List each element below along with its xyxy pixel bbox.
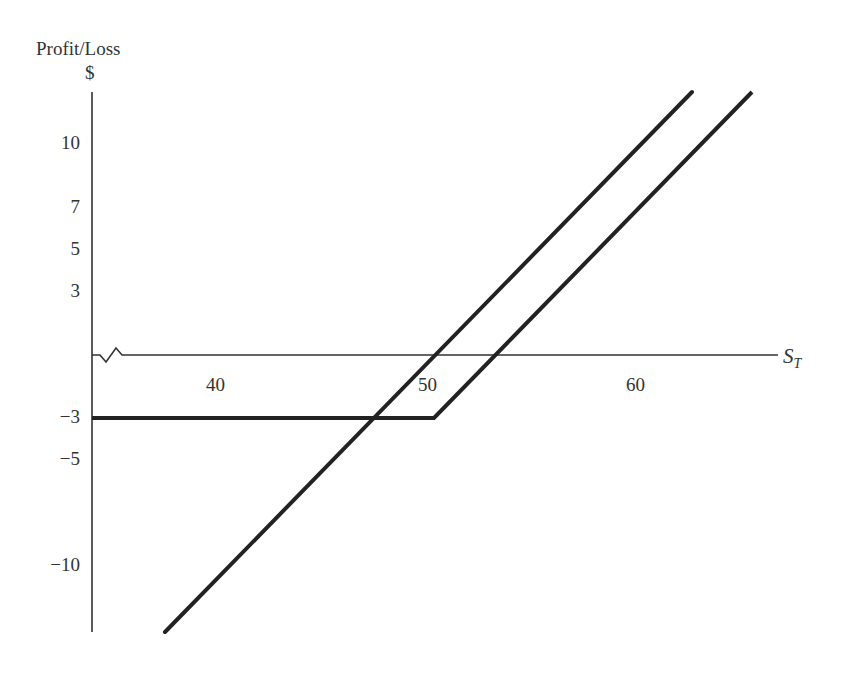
series-long-stock xyxy=(165,92,692,632)
chart-plot xyxy=(0,0,844,675)
